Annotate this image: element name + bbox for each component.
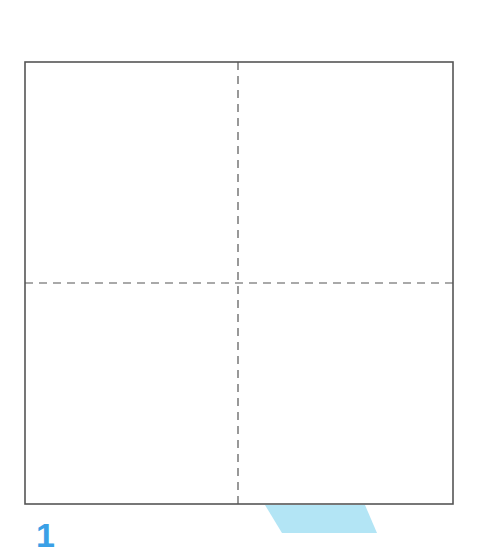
step-number: 1	[36, 518, 55, 551]
accent-parallelogram	[265, 505, 377, 533]
